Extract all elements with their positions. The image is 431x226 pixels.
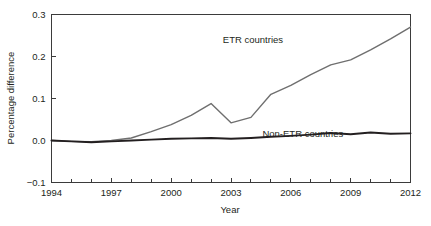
x-axis-tick-labels: 1994199720002003200620092012 <box>41 187 421 198</box>
y-tick-label: 0.3 <box>32 9 45 20</box>
x-axis-title: Year <box>220 204 239 215</box>
series-label-non-etr-countries: Non-ETR countries <box>262 128 343 139</box>
chart-figure: 0.30.20.10.0−0.1 19941997200020032006200… <box>0 0 431 226</box>
x-axis-ticks <box>52 178 411 183</box>
series-label-etr-countries: ETR countries <box>223 34 283 45</box>
line-chart: 0.30.20.10.0−0.1 19941997200020032006200… <box>0 0 431 226</box>
y-axis-title: Percentage difference <box>5 52 16 145</box>
y-tick-label: 0.0 <box>32 135 45 146</box>
y-axis-tick-labels: 0.30.20.10.0−0.1 <box>27 9 46 188</box>
x-tick-label: 2009 <box>340 187 361 198</box>
x-tick-label: 2012 <box>400 187 421 198</box>
y-tick-label: 0.1 <box>32 93 45 104</box>
y-tick-label: 0.2 <box>32 51 45 62</box>
y-axis-ticks <box>52 15 56 183</box>
series-annotations: ETR countriesNon-ETR countries <box>223 34 344 138</box>
x-tick-label: 2000 <box>161 187 182 198</box>
x-tick-label: 2006 <box>280 187 301 198</box>
x-tick-label: 1997 <box>101 187 122 198</box>
x-tick-label: 1994 <box>41 187 62 198</box>
x-tick-label: 2003 <box>220 187 241 198</box>
series-line-non-etr-countries <box>52 133 411 143</box>
